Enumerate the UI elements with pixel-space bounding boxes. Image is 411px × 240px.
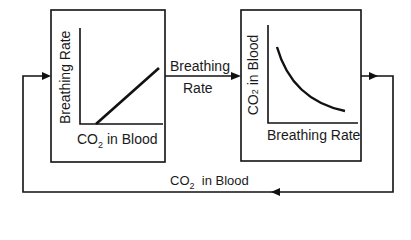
co-text: CO — [77, 131, 98, 147]
subscript-2: 2 — [98, 140, 103, 150]
middle-arrowhead-icon — [231, 72, 241, 80]
right-out-arrowhead-icon — [369, 72, 378, 80]
in-blood-text: in Blood — [107, 131, 158, 147]
right-y-axis-label: CO2 in Blood — [246, 30, 260, 120]
left-in-arrowhead-icon — [42, 72, 51, 80]
co-text: CO — [245, 94, 261, 115]
in-blood-text: in Blood — [245, 35, 261, 89]
right-graph-curve — [277, 47, 345, 111]
right-x-axis-label: Breathing Rate — [267, 128, 360, 142]
bottom-arrowhead-icon — [271, 188, 280, 196]
left-x-axis-label: CO2 in Blood — [77, 132, 158, 146]
middle-arrow-label-line2: Rate — [183, 81, 213, 95]
bottom-arrow-label: CO2 in Blood — [170, 174, 249, 187]
subscript-2: 2 — [190, 181, 195, 191]
middle-arrow-label-line1: Breathing — [170, 59, 230, 73]
subscript-2: 2 — [250, 89, 260, 94]
left-graph-line — [96, 68, 159, 124]
right-graph-axes — [268, 25, 358, 123]
in-blood-text: in Blood — [202, 173, 249, 188]
left-y-axis-label: Breathing Rate — [58, 34, 72, 124]
co-text: CO — [170, 173, 190, 188]
